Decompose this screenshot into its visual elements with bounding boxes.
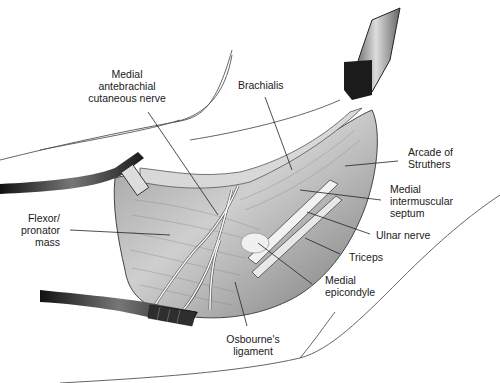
label-medial-epicondyle: Medial epicondyle [325, 274, 375, 298]
label-brachialis: Brachialis [238, 79, 284, 91]
label-ulnar-nerve: Ulnar nerve [376, 229, 430, 241]
label-osbournes-ligament: Osbourne's ligament [222, 333, 284, 357]
label-flexor-pronator-mass: Flexor/ pronator mass [10, 212, 60, 248]
anatomical-illustration: Medial antebrachial cutaneous nerve Brac… [0, 0, 500, 383]
label-arcade-of-struthers: Arcade of Struthers [408, 146, 453, 170]
label-medial-intermuscular-septum: Medial intermuscular septum [390, 183, 453, 219]
upper-retractor [344, 8, 400, 100]
label-medial-antebrachial-cutaneous-nerve: Medial antebrachial cutaneous nerve [85, 68, 169, 104]
medial-epicondyle-shape [241, 233, 269, 253]
label-triceps: Triceps [349, 251, 383, 263]
